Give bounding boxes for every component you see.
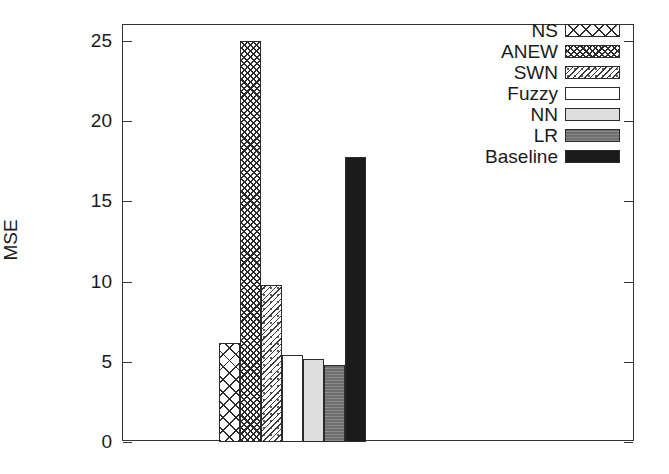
- legend-label: Fuzzy: [507, 84, 558, 103]
- y-tick-label: 0: [101, 432, 112, 451]
- y-axis-tick-labels: 0510152025: [62, 0, 112, 474]
- y-tick-mark-right: [624, 442, 633, 443]
- bar-baseline: [345, 157, 366, 442]
- legend-swatch-black-icon: [565, 150, 620, 163]
- legend-item-nn[interactable]: NN: [430, 104, 620, 125]
- y-tick-label: 10: [91, 271, 112, 290]
- chart-legend: NSANEWSWNFuzzyNNLRBaseline: [430, 20, 620, 167]
- legend-swatch-xhatch-dense-icon: [565, 45, 620, 58]
- legend-swatch-empty-icon: [565, 87, 620, 100]
- legend-item-lr[interactable]: LR: [430, 125, 620, 146]
- legend-label: ANEW: [501, 42, 558, 61]
- bar-lr: [324, 365, 345, 442]
- y-tick-label: 20: [91, 111, 112, 130]
- legend-swatch-speckle-icon: [565, 66, 620, 79]
- y-tick-mark: [123, 442, 132, 443]
- bar-nn: [303, 359, 324, 442]
- legend-swatch-mid-gray-icon: [565, 129, 620, 142]
- legend-swatch-xhatch-large-icon: [565, 24, 620, 37]
- legend-label: NN: [531, 105, 558, 124]
- legend-label: NS: [532, 21, 558, 40]
- y-axis-title: MSE: [1, 210, 20, 270]
- legend-item-anew[interactable]: ANEW: [430, 41, 620, 62]
- bar-chart-figure: 0510152025 MSE NSANEWSWNFuzzyNNLRBaselin…: [0, 0, 669, 474]
- legend-item-fuzzy[interactable]: Fuzzy: [430, 83, 620, 104]
- legend-label: LR: [534, 126, 558, 145]
- bar-anew: [240, 41, 261, 442]
- legend-item-ns[interactable]: NS: [430, 20, 620, 41]
- bar-ns: [219, 343, 240, 442]
- legend-label: Baseline: [485, 147, 558, 166]
- bar-swn: [261, 285, 282, 442]
- y-tick-label: 15: [91, 191, 112, 210]
- legend-swatch-light-gray-icon: [565, 108, 620, 121]
- y-tick-label: 5: [101, 351, 112, 370]
- legend-item-swn[interactable]: SWN: [430, 62, 620, 83]
- legend-label: SWN: [514, 63, 558, 82]
- y-tick-label: 25: [91, 31, 112, 50]
- legend-item-baseline[interactable]: Baseline: [430, 146, 620, 167]
- bar-fuzzy: [282, 355, 303, 442]
